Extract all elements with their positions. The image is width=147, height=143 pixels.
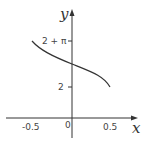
y-tick-label-high: 2 + π — [42, 36, 67, 46]
y-axis-arrow-icon — [70, 9, 75, 16]
x-tick-label-pos: 0.5 — [103, 122, 117, 132]
x-tick-label-neg: -0.5 — [22, 122, 40, 132]
curve — [32, 41, 110, 87]
x-axis-label: x — [132, 119, 141, 137]
y-tick-label-low: 2 — [58, 82, 64, 92]
y-axis-label: y — [59, 5, 69, 23]
origin-label: 0 — [65, 120, 71, 130]
chart: y x 2 + π 2 -0.5 0 0.5 — [0, 0, 147, 143]
